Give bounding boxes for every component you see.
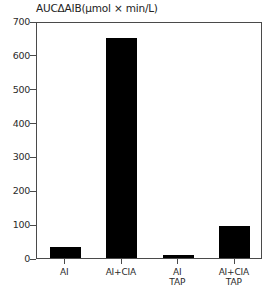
bar (163, 255, 194, 258)
x-axis-tick (64, 259, 65, 264)
y-axis-tick-label: 300 (0, 151, 30, 162)
y-axis-tick-label: 500 (0, 84, 30, 95)
y-axis-tick-label: 200 (0, 185, 30, 196)
bar (106, 38, 137, 258)
x-axis-tick (177, 259, 178, 264)
x-axis-category-label: AI+CIA TAP (194, 267, 272, 287)
y-axis-tick-label: 0 (0, 253, 30, 264)
y-axis-tick-label: 700 (0, 16, 30, 27)
chart-title: AUCΔAIB(μmol × min/L) (36, 2, 158, 14)
x-axis-tick (121, 259, 122, 264)
bar-chart-figure: AUCΔAIB(μmol × min/L) 010020030040050060… (0, 0, 272, 291)
bar (50, 247, 81, 258)
y-axis-tick-label: 600 (0, 50, 30, 61)
plot-area (36, 22, 262, 259)
bar (219, 226, 250, 258)
y-axis-tick-label: 400 (0, 118, 30, 129)
y-axis-tick-label: 100 (0, 219, 30, 230)
x-axis-tick (234, 259, 235, 264)
